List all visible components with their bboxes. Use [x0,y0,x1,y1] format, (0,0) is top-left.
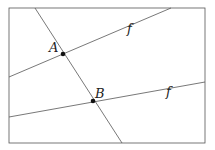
transversal-line [35,8,122,143]
point-b-label: B [94,86,105,101]
line-f-lower-label: f [165,84,173,99]
point-a [61,52,66,57]
line-f-lower [9,82,205,117]
line-f-upper [9,8,171,77]
diagram-frame [9,8,205,143]
line-f-upper-label: f [126,21,134,36]
geometry-diagram: A B f f [0,0,215,150]
point-a-label: A [48,40,58,55]
